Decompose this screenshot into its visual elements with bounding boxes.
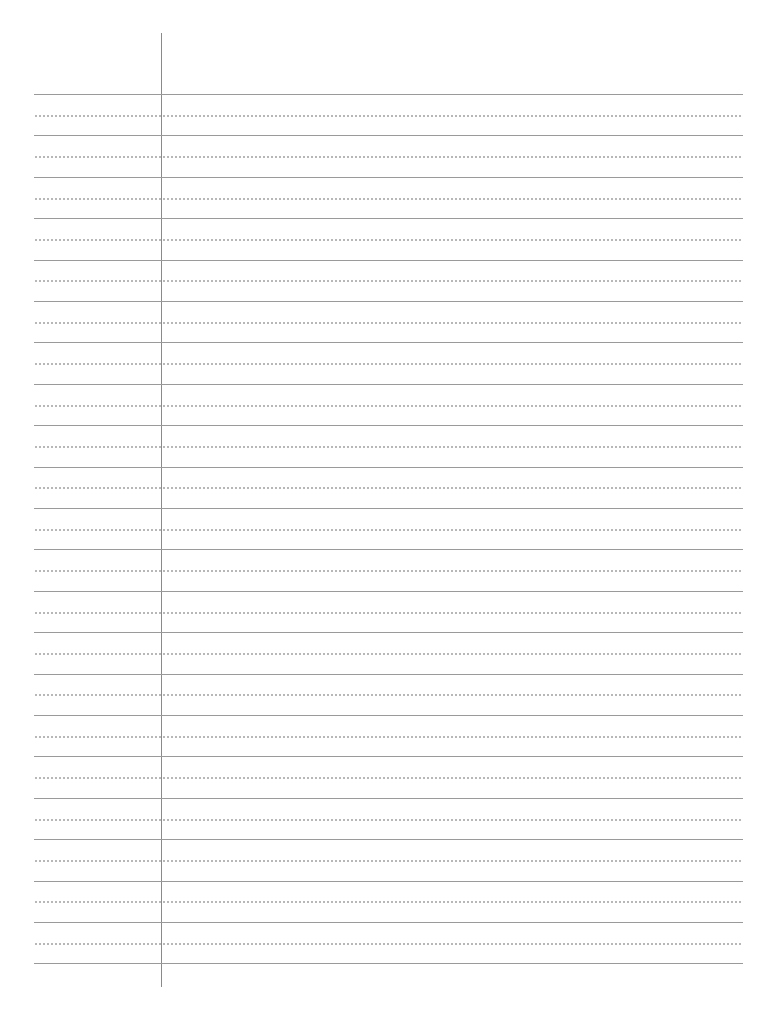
- solid-rule-line: [34, 591, 743, 592]
- dotted-guide-line: [34, 819, 743, 821]
- solid-rule-line: [34, 839, 743, 840]
- solid-rule-line: [34, 674, 743, 675]
- solid-rule-line: [34, 94, 743, 95]
- dotted-guide-line: [34, 239, 743, 241]
- solid-rule-line: [34, 922, 743, 923]
- solid-rule-line: [34, 549, 743, 550]
- solid-rule-line: [34, 135, 743, 136]
- dotted-guide-line: [34, 363, 743, 365]
- dotted-guide-line: [34, 322, 743, 324]
- dotted-guide-line: [34, 115, 743, 117]
- solid-rule-line: [34, 177, 743, 178]
- dotted-guide-line: [34, 446, 743, 448]
- solid-rule-line: [34, 798, 743, 799]
- solid-rule-line: [34, 301, 743, 302]
- solid-rule-line: [34, 508, 743, 509]
- dotted-guide-line: [34, 901, 743, 903]
- dotted-guide-line: [34, 487, 743, 489]
- dotted-guide-line: [34, 612, 743, 614]
- dotted-guide-line: [34, 943, 743, 945]
- solid-rule-line: [34, 218, 743, 219]
- solid-rule-line: [34, 260, 743, 261]
- dotted-guide-line: [34, 198, 743, 200]
- solid-rule-line: [34, 963, 743, 964]
- dotted-guide-line: [34, 280, 743, 282]
- dotted-guide-line: [34, 653, 743, 655]
- solid-rule-line: [34, 632, 743, 633]
- dotted-guide-line: [34, 405, 743, 407]
- solid-rule-line: [34, 756, 743, 757]
- dotted-guide-line: [34, 570, 743, 572]
- solid-rule-line: [34, 384, 743, 385]
- lined-paper-page: [0, 0, 774, 1019]
- solid-rule-line: [34, 881, 743, 882]
- dotted-guide-line: [34, 156, 743, 158]
- dotted-guide-line: [34, 777, 743, 779]
- solid-rule-line: [34, 715, 743, 716]
- solid-rule-line: [34, 425, 743, 426]
- dotted-guide-line: [34, 736, 743, 738]
- dotted-guide-line: [34, 694, 743, 696]
- dotted-guide-line: [34, 529, 743, 531]
- solid-rule-line: [34, 467, 743, 468]
- dotted-guide-line: [34, 860, 743, 862]
- solid-rule-line: [34, 342, 743, 343]
